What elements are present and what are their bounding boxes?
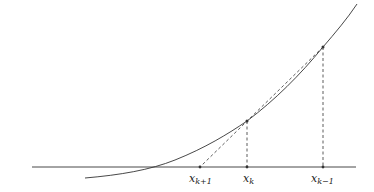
label-x_k_plus_1: xk+1 bbox=[189, 172, 212, 186]
label-x_k_minus_1: xk−1 bbox=[311, 172, 334, 186]
secant-method-diagram: xk−1xkxk+1 bbox=[0, 0, 374, 192]
curve-point-x_k_minus_1 bbox=[322, 46, 325, 49]
curve-point-x_k bbox=[246, 120, 249, 123]
axis-point-x_k_plus_1 bbox=[199, 166, 202, 169]
function-curve bbox=[85, 4, 357, 178]
labels-layer: xk−1xkxk+1 bbox=[189, 172, 334, 186]
secant-line bbox=[200, 47, 323, 167]
label-x_k: xk bbox=[243, 172, 254, 186]
